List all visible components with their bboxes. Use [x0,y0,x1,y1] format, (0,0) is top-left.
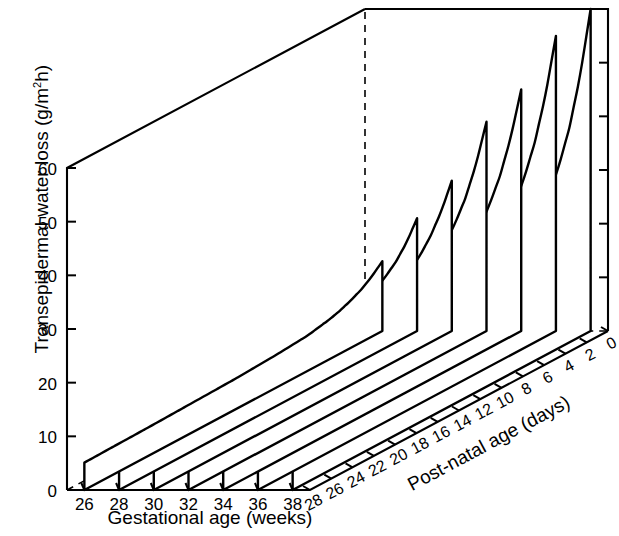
z-axis-tick-label: 24 [344,468,368,491]
z-axis-tick [495,384,502,388]
z-axis-tick [473,395,480,399]
y-axis-title-superscript: 2 [31,82,43,88]
z-axis-tick-label: 16 [429,422,453,445]
y-axis-title: Transepidermal water loss (g/m2h) [31,39,53,379]
z-axis-tick-label: 0 [603,334,619,353]
tewl-3d-chart: 0102030405060262830323436382826242220181… [0,0,619,536]
z-axis-tick [388,441,395,445]
figure-canvas: 0102030405060262830323436382826242220181… [0,0,619,536]
z-axis-tick [537,361,544,365]
z-axis-tick [452,407,459,411]
z-axis-tick-label: 4 [561,356,577,375]
z-axis-tick [516,372,523,376]
y-axis-tick-label: 10 [38,428,57,447]
z-axis-tick [346,463,353,467]
z-axis-tick [367,452,374,456]
z-axis-tick [580,338,587,342]
z-axis-tick [558,350,565,354]
z-axis-tick [409,429,416,433]
x-axis-title: Gestational age (weeks) [90,507,330,529]
z-axis-tick-label: 2 [582,345,598,364]
y-axis-title-prefix: Transepidermal water loss (g/m [31,88,52,353]
z-axis-tick [431,418,438,422]
z-axis-tick-label: 26 [323,479,347,502]
z-axis-tick-label: 18 [408,434,432,457]
y-axis-tick-label: 0 [48,482,57,501]
z-axis-tick-label: 14 [451,411,475,434]
z-axis-tick-label: 8 [518,379,534,398]
z-axis-tick [324,475,331,479]
z-axis-tick-label: 12 [472,400,496,423]
z-axis-tick-label: 22 [365,456,389,479]
z-axis-tick-label: 6 [540,368,556,387]
y-axis-title-suffix: h) [31,65,52,82]
z-axis-tick-label: 10 [493,388,517,411]
z-axis-tick-label: 20 [387,445,411,468]
